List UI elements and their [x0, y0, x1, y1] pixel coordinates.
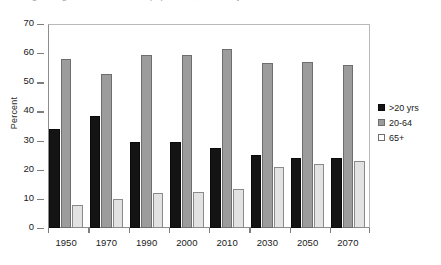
bar-1990-20-yrs[interactable]: [130, 142, 141, 228]
bar-1950-20-yrs[interactable]: [49, 129, 60, 228]
bar-1950-20-64[interactable]: [61, 59, 72, 228]
x-tick-label-1990: 1990: [136, 237, 157, 248]
bar-1990-65[interactable]: [153, 193, 164, 228]
x-tick-mark: [209, 228, 210, 233]
x-tick-mark: [129, 228, 130, 233]
legend-item-20-64[interactable]: 20-64: [378, 115, 438, 130]
x-tick-mark: [88, 228, 89, 233]
legend-swatch-white-icon: [378, 134, 385, 141]
y-tick-label: 10: [23, 192, 34, 203]
y-tick-label: 20: [23, 163, 34, 174]
bar-2010-20-yrs[interactable]: [210, 148, 221, 228]
y-tick-10: 10: [0, 199, 48, 200]
legend-swatch-gray-icon: [378, 119, 385, 126]
y-tick-mark: [37, 170, 44, 171]
bar-2070-20-yrs[interactable]: [331, 158, 342, 228]
bar-2070-65[interactable]: [354, 161, 365, 228]
y-tick-mark: [37, 24, 44, 25]
bar-2010-20-64[interactable]: [222, 49, 233, 228]
x-tick-mark: [48, 228, 49, 233]
y-tick-0: 0: [0, 228, 48, 229]
x-tick-mark: [249, 228, 250, 233]
bar-2000-20-yrs[interactable]: [170, 142, 181, 228]
bar-1970-20-yrs[interactable]: [90, 116, 101, 228]
bar-2050-20-yrs[interactable]: [291, 158, 302, 228]
x-tick-mark: [169, 228, 170, 233]
bar-2050-20-64[interactable]: [302, 62, 313, 228]
bar-group-2050: [291, 24, 325, 228]
y-tick-mark: [37, 82, 44, 83]
legend-item-20-yrs[interactable]: >20 yrs: [378, 100, 438, 115]
bar-chart: Percent 706050403020100 1950197019902000…: [0, 0, 441, 265]
x-tick-mark: [330, 228, 331, 233]
y-axis-title: Percent: [9, 83, 19, 143]
bar-2050-65[interactable]: [314, 164, 325, 228]
y-tick-label: 40: [23, 104, 34, 115]
bar-2030-65[interactable]: [274, 167, 285, 228]
x-tick-label-1950: 1950: [56, 237, 77, 248]
x-tick-label-2000: 2000: [176, 237, 197, 248]
y-tick-mark: [37, 111, 44, 112]
bar-group-2010: [210, 24, 244, 228]
y-tick-label: 50: [23, 75, 34, 86]
bar-2030-20-yrs[interactable]: [251, 155, 262, 228]
bar-1990-20-64[interactable]: [141, 55, 152, 228]
legend-label: >20 yrs: [389, 103, 419, 113]
bar-1950-65[interactable]: [72, 205, 83, 228]
legend-item-65[interactable]: 65+: [378, 130, 438, 145]
y-tick-mark: [37, 141, 44, 142]
bar-2070-20-64[interactable]: [343, 65, 354, 228]
y-tick-30: 30: [0, 141, 48, 142]
y-tick-60: 60: [0, 53, 48, 54]
x-axis: 19501970199020002010203020502070: [48, 228, 370, 260]
x-tick-label-1970: 1970: [96, 237, 117, 248]
bar-1970-20-64[interactable]: [101, 74, 112, 228]
bar-group-1950: [49, 24, 83, 228]
y-tick-70: 70: [0, 24, 48, 25]
bars-layer: [48, 24, 370, 228]
x-tick-label-2010: 2010: [217, 237, 238, 248]
x-tick-mark: [290, 228, 291, 233]
y-tick-mark: [37, 199, 44, 200]
y-tick-label: 60: [23, 46, 34, 57]
y-tick-label: 70: [23, 17, 34, 28]
y-tick-label: 0: [29, 221, 34, 232]
y-tick-50: 50: [0, 82, 48, 83]
y-tick-20: 20: [0, 170, 48, 171]
legend-label: 20-64: [389, 118, 412, 128]
bar-group-1970: [90, 24, 124, 228]
y-tick-mark: [37, 228, 44, 229]
bar-1970-65[interactable]: [113, 199, 124, 228]
x-tick-label-2030: 2030: [257, 237, 278, 248]
legend-label: 65+: [389, 133, 404, 143]
x-tick-label-2050: 2050: [297, 237, 318, 248]
x-tick-mark: [369, 228, 370, 233]
legend-swatch-black-icon: [378, 104, 385, 111]
bar-group-2030: [251, 24, 285, 228]
bar-group-2070: [331, 24, 365, 228]
bar-2010-65[interactable]: [233, 189, 244, 228]
y-tick-label: 30: [23, 134, 34, 145]
bar-2030-20-64[interactable]: [262, 63, 273, 228]
chart-legend: >20 yrs20-6465+: [378, 100, 438, 145]
bar-group-1990: [130, 24, 164, 228]
bar-2000-20-64[interactable]: [182, 55, 193, 228]
y-tick-40: 40: [0, 111, 48, 112]
y-tick-mark: [37, 53, 44, 54]
bar-2000-65[interactable]: [193, 192, 204, 228]
x-tick-label-2070: 2070: [337, 237, 358, 248]
bar-group-2000: [170, 24, 204, 228]
